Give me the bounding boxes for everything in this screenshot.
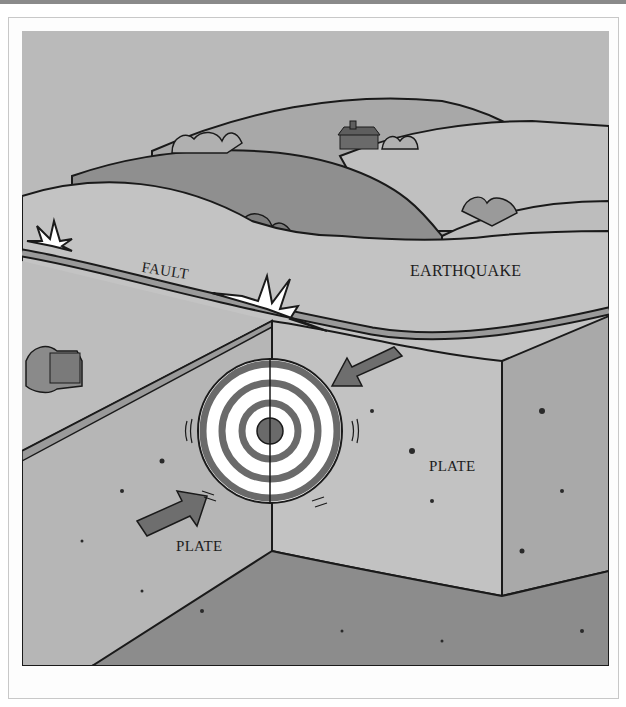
illustration-canvas <box>22 31 609 666</box>
plate-right-label: PLATE <box>429 458 476 475</box>
left-farmhouse-icon <box>26 347 82 393</box>
earthquake-focus-target-icon <box>198 359 342 503</box>
right-plate-side-face <box>502 316 609 596</box>
earthquake-illustration <box>22 31 609 666</box>
earthquake-label: EARTHQUAKE <box>410 262 521 280</box>
top-rule <box>0 0 626 4</box>
bush-icon <box>172 132 242 153</box>
plate-left-label: PLATE <box>176 538 223 555</box>
